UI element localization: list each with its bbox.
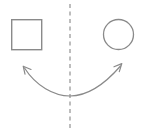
symmetry-diagram <box>0 0 141 135</box>
diagram-canvas <box>0 0 141 135</box>
